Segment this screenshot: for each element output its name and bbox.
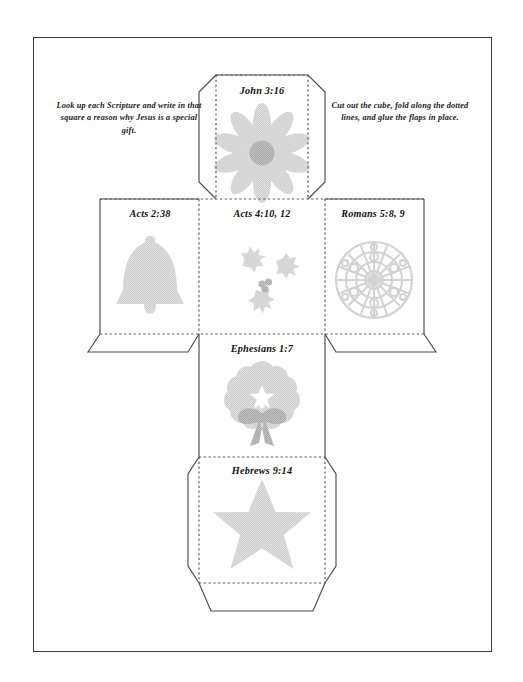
wreath-icon bbox=[224, 361, 300, 446]
instruction-right: Cut out the cube, fold along the dotted … bbox=[330, 100, 470, 125]
ornament-icon bbox=[336, 242, 412, 318]
panel-title-acts238: Acts 2:38 bbox=[102, 208, 198, 219]
bell-icon bbox=[116, 236, 184, 314]
holly-icon bbox=[236, 242, 303, 316]
panel-title-acts410: Acts 4:10, 12 bbox=[206, 208, 318, 219]
flower-icon bbox=[212, 103, 313, 203]
panel-title-john: John 3:16 bbox=[206, 85, 318, 96]
worksheet-sheet: Look up each Scripture and write in that… bbox=[0, 0, 523, 682]
star-icon bbox=[213, 479, 311, 569]
panel-title-romans: Romans 5:8, 9 bbox=[325, 208, 421, 219]
panel-title-ephesians: Ephesians 1:7 bbox=[206, 343, 318, 354]
instruction-left: Look up each Scripture and write in that… bbox=[55, 100, 203, 137]
panel-title-hebrews: Hebrews 9:14 bbox=[206, 465, 318, 476]
